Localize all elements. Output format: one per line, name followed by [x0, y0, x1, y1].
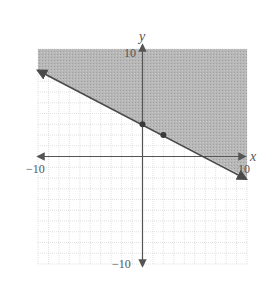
- y-max-label: 10: [124, 46, 136, 60]
- plotted-point: [140, 121, 146, 127]
- x-axis-label: x: [249, 149, 257, 164]
- x-min-label: −10: [26, 162, 45, 176]
- y-axis-label: y: [137, 29, 146, 44]
- y-min-label: −10: [112, 257, 131, 271]
- x-max-label: 10: [238, 162, 250, 176]
- inequality-graph: y x 10 −10 −10 10: [0, 0, 273, 286]
- plotted-point: [160, 132, 166, 138]
